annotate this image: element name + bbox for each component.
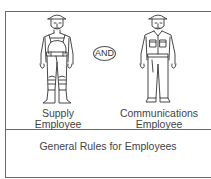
and-connector-badge: AND <box>93 46 116 61</box>
communications-employee-label-line2: Employee <box>118 119 200 130</box>
supply-employee-figure-icon <box>36 12 78 108</box>
supply-employee-label-line2: Employee <box>23 119 93 130</box>
supply-employee-label: Supply Employee <box>23 108 93 130</box>
communications-employee-figure-icon <box>137 12 179 108</box>
communications-employee-label: Communications Employee <box>118 108 200 130</box>
and-label: AND <box>95 48 114 58</box>
general-rules-title: General Rules for Employees <box>5 140 211 152</box>
